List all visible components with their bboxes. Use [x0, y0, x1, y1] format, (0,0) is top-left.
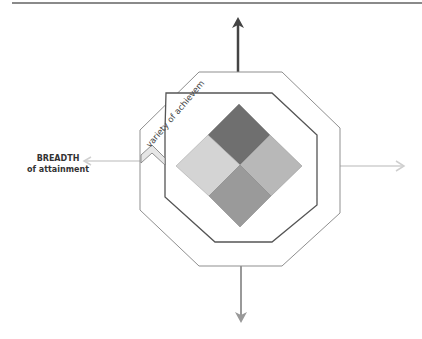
breadth-label: BREADTH of attainment — [18, 153, 98, 175]
arrow-right-icon — [340, 161, 404, 171]
arrow-down-icon — [235, 266, 247, 323]
breadth-subtitle: of attainment — [18, 164, 98, 175]
arrow-up-icon — [232, 17, 244, 72]
breadth-title: BREADTH — [18, 153, 98, 164]
